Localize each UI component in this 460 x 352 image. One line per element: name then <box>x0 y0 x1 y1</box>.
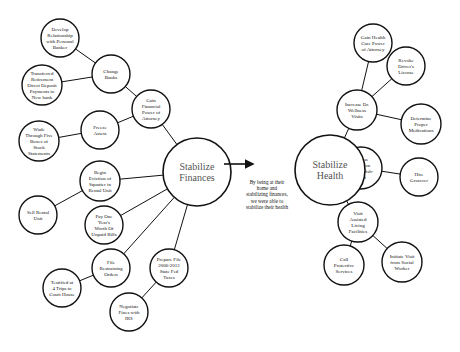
node-label-line: Orders <box>104 272 118 277</box>
edge-wellness-health <box>344 128 348 138</box>
node-label-line: Grocerer <box>410 178 428 183</box>
node-label-line: Finances <box>179 172 215 183</box>
node-gain-fin-poa: GainFinancialPower ofAttorney <box>132 90 170 128</box>
node-label-line: Boxes of <box>30 139 48 144</box>
node-pay: Pay OneYear'sWorth OfUnpaid Bills <box>85 206 123 244</box>
edge-change-banks-gain-fin-poa <box>125 87 136 97</box>
node-label-line: IRS <box>125 316 133 321</box>
edge-prepare-finances <box>174 205 187 250</box>
node-change-banks: ChangeBanks <box>92 55 130 93</box>
node-eviction: BeginEviction ofSquatter inRental Unit <box>80 161 120 201</box>
node-label-line: Prepare File <box>157 257 182 262</box>
node-grocer: HireGrocerer <box>400 158 438 196</box>
node-medications: DetermineProperMedications <box>401 104 441 144</box>
node-label-line: Statements <box>28 151 50 156</box>
node-label-line: Worth Of <box>95 226 114 231</box>
node-label-line: Court House <box>49 292 75 297</box>
node-label-line: Banker <box>53 45 68 50</box>
edge-freeze-gain-fin-poa <box>118 116 134 123</box>
node-assisted: VisitAssistedLivingFacilities <box>338 202 378 242</box>
node-label-line: Gain <box>146 98 156 103</box>
node-label-line: Direct Deposit <box>27 83 57 88</box>
edge-restraining-finances <box>124 197 175 254</box>
node-label-line: Banks <box>105 75 118 80</box>
node-protective: CallProtectiveServices <box>324 245 364 285</box>
node-negotiate: NegotiateFines withIRS <box>110 293 148 331</box>
node-testified: Testified at4 Trips toCourt House <box>43 269 81 307</box>
hub-finances: StabilizeFinances <box>163 138 231 206</box>
node-label-line: Year's <box>98 220 110 225</box>
node-label-line: Stock <box>33 145 45 150</box>
node-label-line: from Social <box>390 260 414 265</box>
node-label: FreezeAssets <box>93 125 107 136</box>
node-label-line: Sell Rental <box>27 210 50 215</box>
node-develop: DevelopRelationshipwith PersonalBanker <box>41 19 79 57</box>
mind-map-diagram: DevelopRelationshipwith PersonalBankerCh… <box>0 0 460 352</box>
node-wellness: Increase Dr.WellnessVisits <box>337 90 377 130</box>
node-label-line: Assisted <box>350 217 367 222</box>
node-restraining: FileRestrainingOrders <box>92 249 130 287</box>
node-label: StabilizeHealth <box>313 159 349 181</box>
node-label-line: Health <box>317 170 344 181</box>
node-label-line: Increase Dr. <box>345 102 369 107</box>
node-label-line: 2006-2012 <box>158 263 180 268</box>
node-label-line: Retirement <box>31 77 54 82</box>
node-label-line: Revoke <box>398 58 414 63</box>
node-label-line: Driver's <box>398 64 414 69</box>
node-label-line: Unit <box>34 216 44 221</box>
node-label-line: Financial <box>142 104 161 109</box>
caption-line: home and <box>257 185 278 191</box>
node-label-line: Eviction of <box>89 176 112 181</box>
node-label-line: Unpaid Bills <box>91 232 116 237</box>
node-label-line: State Fed <box>160 269 179 274</box>
node-social: Initiate Visitfrom SocialWorker <box>382 242 422 282</box>
node-label-line: Living <box>351 223 365 228</box>
node-label-line: Services <box>336 269 353 274</box>
node-label-line: Wade <box>33 127 45 132</box>
edge-wellness-medications <box>377 114 402 119</box>
node-label-line: with Personal <box>46 39 74 44</box>
node-transferred: TransferredRetirementDirect DepositPayme… <box>22 65 62 105</box>
edge-transferred-change-banks <box>62 77 92 82</box>
node-label: Gain HealthCare Powerof Attorney <box>361 35 386 52</box>
node-label-line: Call <box>340 257 349 262</box>
edge-wade-freeze <box>59 133 82 137</box>
node-label: StabilizeFinances <box>179 161 215 183</box>
node-label-line: Initiate Visit <box>390 254 415 259</box>
node-label-line: Rental Unit <box>88 188 112 193</box>
edge-nutrition-grocer <box>382 171 400 174</box>
node-label-line: File <box>107 260 116 265</box>
node-label-line: of Attorney <box>362 47 385 52</box>
node-label-line: Pay One <box>95 214 113 219</box>
node-label-line: Testified at <box>51 280 74 285</box>
node-label-line: Stabilize <box>313 159 349 170</box>
node-label-line: Assets <box>93 131 106 136</box>
edge-negotiate-prepare <box>142 282 156 298</box>
node-freeze: FreezeAssets <box>81 111 119 149</box>
edge-sell-eviction <box>55 191 83 206</box>
node-label-line: Protective <box>334 263 355 268</box>
caption-line: By being at their <box>250 179 285 185</box>
node-label-line: Squatter in <box>89 182 111 187</box>
caption-line: stabilizing finances, <box>246 191 288 197</box>
caption-line: stabilize their health <box>246 204 288 210</box>
node-label-line: Power of <box>142 110 161 115</box>
node-revoke: RevokeDriver'sLicense <box>387 47 425 85</box>
edge-revoke-wellness <box>372 79 392 97</box>
node-label-line: Freeze <box>93 125 107 130</box>
node-label-line: Gain Health <box>361 35 386 40</box>
node-label-line: Develop <box>52 27 69 32</box>
node-label: RevokeDriver'sLicense <box>398 58 415 75</box>
node-label-line: Stabilize <box>180 161 216 172</box>
node-label-line: Transferred <box>30 71 54 76</box>
node-label-line: Visit <box>353 211 363 216</box>
node-label-line: New bank <box>32 95 53 100</box>
node-prepare: Prepare File2006-2012State FedTaxes <box>150 249 188 287</box>
node-label-line: Begin <box>94 170 106 175</box>
edge-gain-hc-poa-wellness <box>362 61 369 90</box>
node-wade: WadeThrough FiveBoxes ofStockStatements <box>19 121 59 161</box>
node-label-line: Visits <box>351 114 362 119</box>
node-label: Testified at4 Trips toCourt House <box>49 280 75 297</box>
node-label-line: Change <box>103 69 119 74</box>
edge-pay-finances <box>121 189 168 216</box>
